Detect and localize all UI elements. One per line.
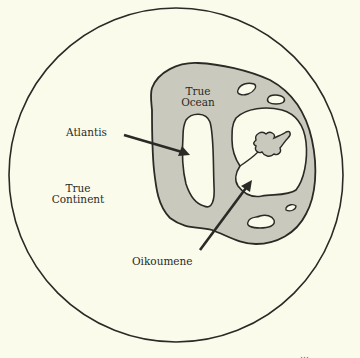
oikoumene-label: Oikoumene <box>132 256 193 267</box>
atlantis-label: Atlantis <box>66 127 107 138</box>
island-3 <box>286 205 296 211</box>
credit-text: … <box>300 350 309 358</box>
island-2 <box>267 95 284 104</box>
diagram-stage: True Ocean Atlantis True Continent Oikou… <box>0 0 360 358</box>
true-ocean-label: True Ocean <box>178 86 218 108</box>
true-continent-label-line-2: Continent <box>48 194 108 205</box>
true-ocean-label-line-2: Ocean <box>178 97 218 108</box>
true-continent-label: True Continent <box>48 183 108 205</box>
world-diagram <box>0 0 360 358</box>
